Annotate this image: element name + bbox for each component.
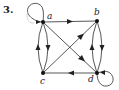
- arrow-d-b: [90, 44, 95, 50]
- node-label-d: d: [88, 74, 94, 84]
- directed-graph: 3. a b c d: [0, 0, 119, 90]
- edge-a-a-loop: [27, 3, 43, 22]
- arrow-a-b: [67, 19, 73, 24]
- node-label-c: c: [40, 76, 45, 86]
- edge-d-d-loop: [97, 71, 113, 86]
- node-d: [95, 71, 99, 75]
- arrow-a-loop: [36, 20, 41, 24]
- node-a: [41, 20, 45, 24]
- problem-number: 3.: [3, 4, 13, 15]
- node-label-a: a: [47, 11, 52, 21]
- node-c: [41, 71, 45, 75]
- arrow-c-a: [36, 44, 41, 50]
- arrow-b-d: [100, 45, 105, 51]
- arrow-a-c: [46, 45, 51, 51]
- node-label-b: b: [94, 7, 100, 17]
- arrow-d-c: [68, 71, 74, 76]
- arrow-d-loop: [100, 70, 105, 75]
- node-b: [95, 19, 99, 23]
